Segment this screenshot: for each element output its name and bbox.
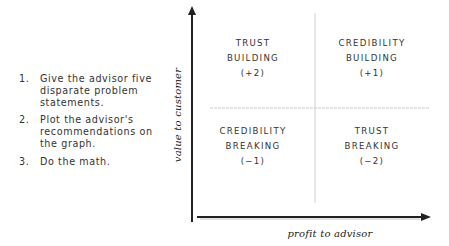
y-axis-label: value to customer [172, 68, 183, 162]
quadrant-score: (−2) [317, 154, 427, 169]
quadrant-score: (−1) [198, 154, 308, 169]
quadrant-title-line1: CREDIBILITY [317, 36, 427, 51]
quadrant-title-line1: TRUST [317, 124, 427, 139]
quadrant-trust-breaking: TRUST BREAKING (−2) [317, 124, 427, 169]
y-axis-arrow-icon [188, 6, 196, 15]
quadrant-score: (+1) [317, 66, 427, 81]
quadrant-title-line2: BREAKING [317, 139, 427, 154]
quadrant-title-line2: BUILDING [317, 51, 427, 66]
quadrant-credibility-breaking: CREDIBILITY BREAKING (−1) [198, 124, 308, 169]
quadrant-title-line2: BREAKING [198, 139, 308, 154]
quadrant-title-line1: CREDIBILITY [198, 124, 308, 139]
quadrant-score: (+2) [198, 66, 308, 81]
quadrant-title-line2: BUILDING [198, 51, 308, 66]
x-axis-label: profit to advisor [287, 228, 372, 239]
quadrant-credibility-building: CREDIBILITY BUILDING (+1) [317, 36, 427, 81]
x-axis-arrow-icon [421, 213, 431, 221]
quadrant-trust-building: TRUST BUILDING (+2) [198, 36, 308, 81]
quadrant-title-line1: TRUST [198, 36, 308, 51]
